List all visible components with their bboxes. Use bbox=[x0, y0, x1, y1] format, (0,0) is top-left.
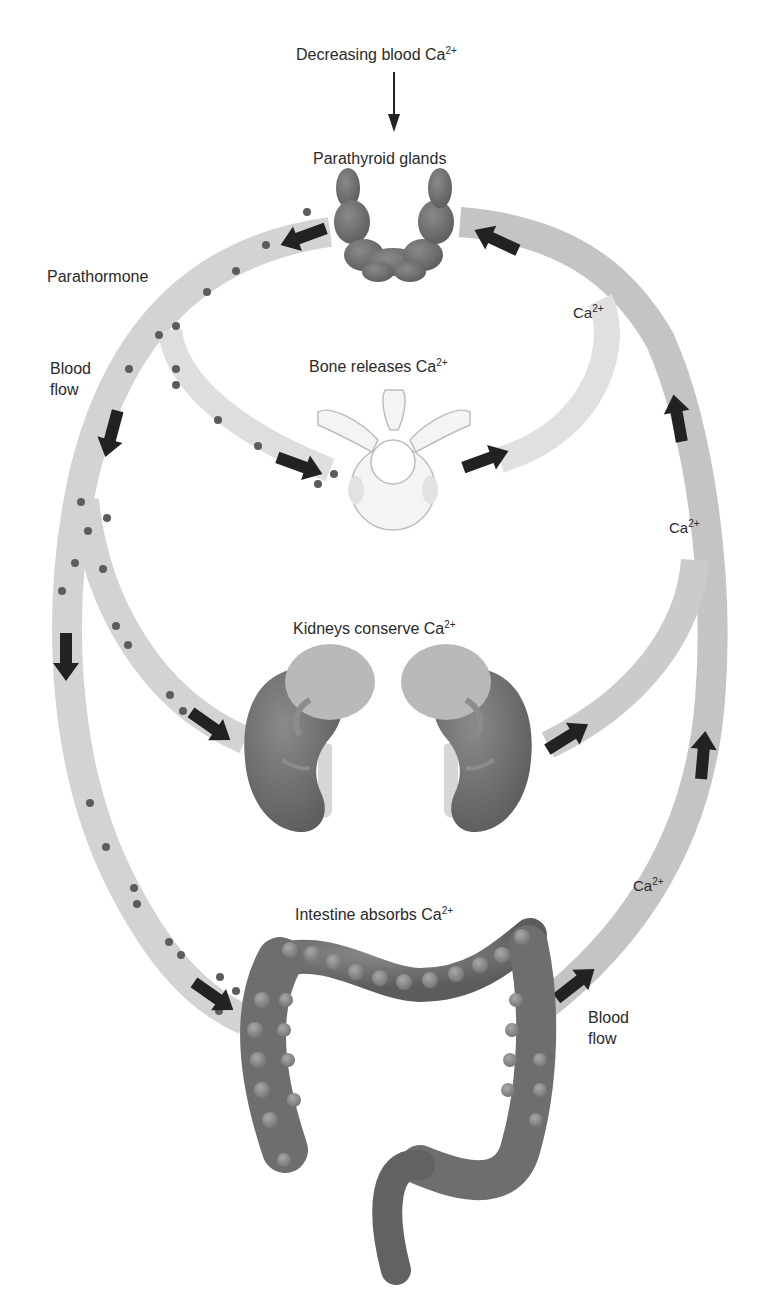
parathormone-label: Parathormone bbox=[47, 267, 148, 286]
ion-2-superscript: 2+ bbox=[688, 518, 699, 529]
intestine-superscript: 2+ bbox=[442, 905, 453, 916]
blood-flow-left-line1: Blood bbox=[50, 360, 91, 377]
parathormone-text: Parathormone bbox=[47, 268, 148, 285]
calcium-ion-label-middle: Ca2+ bbox=[669, 518, 700, 539]
blood-flow-left-line2: flow bbox=[50, 381, 78, 398]
blood-flow-left-label: Blood flow bbox=[50, 358, 91, 400]
blood-flow-right-line1: Blood bbox=[588, 1009, 629, 1026]
title-superscript: 2+ bbox=[445, 45, 456, 56]
ion-1-superscript: 2+ bbox=[592, 303, 603, 314]
parathyroid-glands-illustration bbox=[334, 168, 454, 282]
right-blood-vessel-arcs bbox=[460, 222, 713, 1005]
bone-superscript: 2+ bbox=[436, 357, 447, 368]
intestine-text: Intestine absorbs Ca bbox=[295, 906, 442, 923]
ion-2-text: Ca bbox=[669, 519, 688, 536]
ion-1-text: Ca bbox=[573, 304, 592, 321]
ion-3-superscript: 2+ bbox=[652, 876, 663, 887]
intestine-absorbs-label: Intestine absorbs Ca2+ bbox=[295, 905, 453, 926]
vertebra-bone-illustration bbox=[318, 390, 470, 530]
large-intestine-illustration bbox=[247, 929, 547, 1270]
flow-arrows bbox=[53, 72, 718, 1021]
kidneys-text: Kidneys conserve Ca bbox=[293, 620, 444, 637]
kidneys-superscript: 2+ bbox=[444, 619, 455, 630]
title-label: Decreasing blood Ca2+ bbox=[296, 45, 457, 66]
calcium-ion-label-lower: Ca2+ bbox=[633, 876, 664, 897]
bone-releases-label: Bone releases Ca2+ bbox=[309, 357, 448, 378]
kidneys-conserve-label: Kidneys conserve Ca2+ bbox=[293, 619, 456, 640]
blood-flow-right-label: Blood flow bbox=[588, 1007, 629, 1049]
calcium-ion-label-upper: Ca2+ bbox=[573, 303, 604, 324]
title-text: Decreasing blood Ca bbox=[296, 46, 445, 63]
parathyroid-text: Parathyroid glands bbox=[313, 150, 446, 167]
calcium-regulation-diagram bbox=[0, 0, 763, 1309]
blood-flow-right-line2: flow bbox=[588, 1030, 616, 1047]
left-kidney-illustration bbox=[244, 644, 375, 832]
parathyroid-glands-label: Parathyroid glands bbox=[313, 149, 446, 168]
parathormone-dots bbox=[58, 208, 338, 1015]
left-blood-vessel-arcs bbox=[67, 232, 330, 1020]
ion-3-text: Ca bbox=[633, 877, 652, 894]
bone-text: Bone releases Ca bbox=[309, 358, 436, 375]
right-kidney-illustration bbox=[401, 644, 532, 832]
